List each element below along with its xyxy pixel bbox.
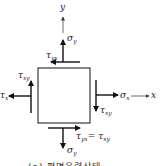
sigma-x-right-label: σx [120, 91, 130, 101]
sigma-y-bottom-label: σy [67, 146, 77, 156]
sigma-x-left-label: τx [0, 91, 8, 101]
y-axis-label: y [60, 3, 65, 12]
tau-xy-right-label: τxy [100, 106, 112, 116]
stress-element-square [38, 68, 90, 123]
x-axis-label: x [151, 91, 156, 100]
tau-yx-bottom-label: τyx= τxy [76, 132, 110, 142]
sigma-y-top-label: σy [67, 34, 77, 44]
figure-caption: (a) 평면응력상태 [28, 160, 101, 166]
tau-yx-top-label: τyx [46, 51, 58, 61]
tau-xy-left-label: τxy [18, 71, 30, 81]
